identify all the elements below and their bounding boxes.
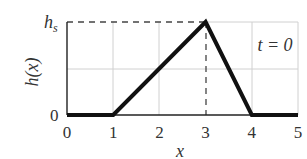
x-tick-label: 1 <box>109 123 118 142</box>
time-annotation: t = 0 <box>257 35 292 55</box>
x-tick-label: 0 <box>63 123 72 142</box>
y-axis-label: h(x) <box>22 58 43 87</box>
y-tick-zero: 0 <box>50 106 59 125</box>
y-tick-hs: hs <box>44 12 58 35</box>
x-tick-label: 4 <box>248 123 257 142</box>
x-tick-label: 5 <box>294 123 303 142</box>
chart-svg: 012345 0 hs x h(x) t = 0 <box>0 0 307 159</box>
x-tick-labels: 012345 <box>63 123 303 142</box>
x-axis-label: x <box>175 141 184 159</box>
x-tick-label: 2 <box>155 123 164 142</box>
x-tick-label: 3 <box>201 123 210 142</box>
